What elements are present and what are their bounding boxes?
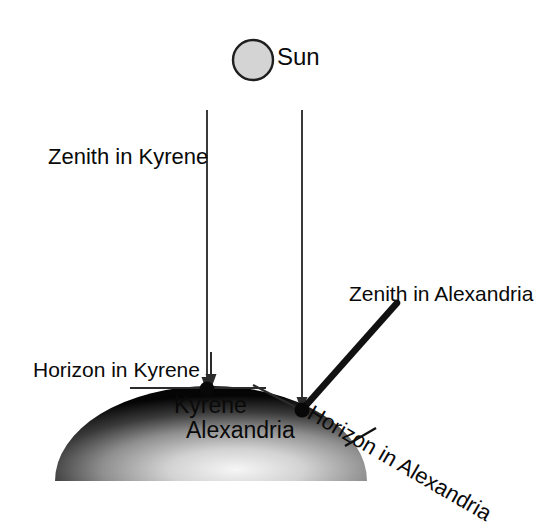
zenith-line-alexandria [301,303,397,411]
sun-icon [233,40,273,80]
zenith-in-kyrene-label: Zenith in Kyrene [48,146,208,168]
ray-to-alexandria [297,110,308,412]
diagram-graphics [0,0,556,529]
zenith-in-alexandria-label: Zenith in Alexandria [349,283,533,304]
diagram-canvas: Sun Zenith in Kyrene Zenith in Alexandri… [0,0,556,529]
kyrene-city-label: Kyrene [174,394,247,417]
horizon-in-kyrene-label: Horizon in Kyrene [33,359,200,380]
sun-label: Sun [277,45,320,69]
alexandria-city-label: Alexandria [186,419,295,442]
